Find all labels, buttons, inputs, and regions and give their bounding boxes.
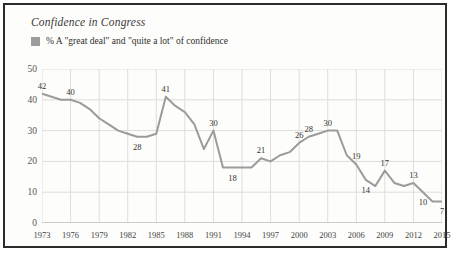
x-axis-tick-label: 2006 [348,230,365,240]
y-axis-tick-label: 30 [28,126,38,136]
data-point-label: 28 [304,124,313,134]
data-point-label: 18 [228,173,237,183]
data-point-label: 28 [133,142,142,152]
x-axis-tick-label: 1991 [205,230,222,240]
x-axis-tick-label: 1973 [34,230,51,240]
data-point-label: 13 [409,170,418,180]
x-axis-tick-label: 1988 [176,230,193,240]
data-point-label: 17 [381,158,390,168]
x-axis-tick-label: 1976 [62,230,79,240]
x-axis-tick-label: 2012 [405,230,422,240]
y-axis-tick-label: 20 [28,156,38,166]
x-axis-tick-label: 1979 [91,230,108,240]
data-point-label: 26 [295,130,304,140]
chart-title: Confidence in Congress [31,16,146,28]
plot-area: 01020304050 1973197619791982198519881991… [42,69,442,223]
chart-legend: % A "great deal" and "quite a lot" of co… [31,36,228,46]
x-axis-tick-label: 2015 [434,230,451,240]
data-point-label: 21 [257,145,266,155]
legend-label: % A "great deal" and "quite a lot" of co… [46,36,228,46]
data-point-label: 10 [419,197,428,207]
data-point-label: 14 [362,185,371,195]
chart-canvas [42,69,442,223]
x-axis-tick-label: 1994 [234,230,251,240]
x-axis-tick-label: 2003 [319,230,336,240]
x-axis-tick-label: 1997 [262,230,279,240]
x-axis-tick-label: 2009 [376,230,393,240]
y-axis-tick-label: 40 [28,95,38,105]
x-axis-tick-label: 1985 [148,230,165,240]
square-swatch-icon [31,37,40,46]
data-point-label: 42 [38,81,47,91]
data-point-label: 30 [209,118,218,128]
data-point-label: 19 [352,151,361,161]
data-point-label: 40 [66,87,75,97]
y-axis-tick-label: 0 [32,218,37,228]
chart-frame: Confidence in Congress % A "great deal" … [3,3,447,248]
data-point-label: 30 [323,118,332,128]
y-axis-tick-label: 50 [28,64,38,74]
x-axis-tick-label: 1982 [119,230,136,240]
x-axis-tick-label: 2000 [291,230,308,240]
data-point-label: 7 [440,206,444,216]
y-axis-tick-label: 10 [28,187,38,197]
data-point-label: 41 [162,84,171,94]
